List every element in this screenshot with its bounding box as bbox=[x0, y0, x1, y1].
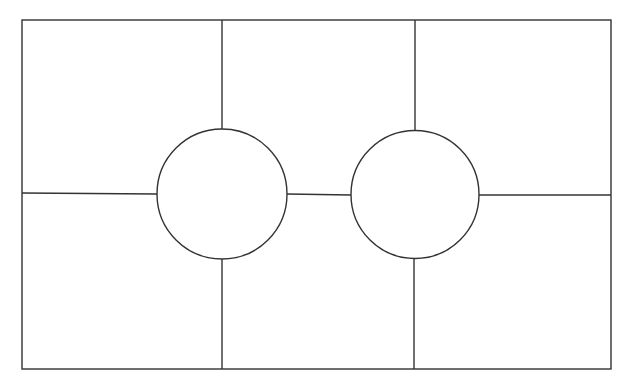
divider-middle-center bbox=[287, 194, 351, 195]
divider-middle-left bbox=[22, 193, 157, 194]
left-circle bbox=[157, 129, 287, 259]
diagram-canvas bbox=[0, 0, 639, 388]
right-circle bbox=[351, 131, 479, 259]
